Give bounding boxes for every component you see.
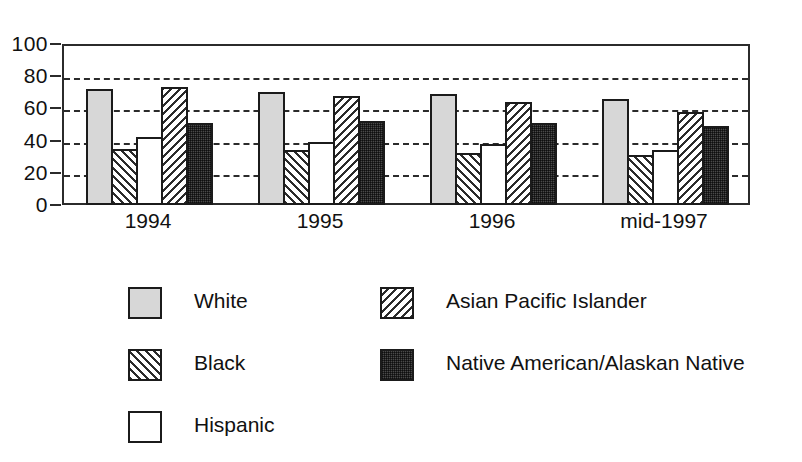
x-tick-label-1996: 1996	[469, 209, 516, 233]
y-tick-label-20: 20	[24, 161, 48, 185]
y-tick-label-0: 0	[36, 193, 48, 217]
bar-1994-asian-pacific-islander	[161, 87, 188, 205]
bar-1995-hispanic	[308, 142, 335, 205]
bar-mid-1997-native-american-alaskan-native	[702, 126, 729, 205]
legend-item-label: Native American/Alaskan Native	[446, 351, 745, 375]
bar-group-mid-1997	[578, 44, 750, 205]
bar-1996-asian-pacific-islander	[505, 102, 532, 205]
chart-figure: 020406080100 199419951996mid-1997 WhiteB…	[0, 0, 802, 462]
bar-groups	[62, 44, 750, 205]
y-tick-mark-60	[50, 107, 61, 109]
bar-1995-native-american-alaskan-native	[358, 121, 385, 205]
y-tick-label-40: 40	[24, 129, 48, 153]
legend-swatch-icon	[128, 287, 162, 319]
y-tick-label-100: 100	[11, 32, 48, 56]
legend-swatch-icon	[380, 287, 414, 319]
bar-1994-native-american-alaskan-native	[186, 123, 213, 205]
plot-area	[62, 44, 750, 205]
bar-group-1995	[234, 44, 406, 205]
bar-1995-black	[283, 150, 310, 205]
bar-group-1994	[62, 44, 234, 205]
bar-1994-white	[86, 89, 113, 205]
bar-mid-1997-white	[602, 99, 629, 205]
y-tick-mark-80	[50, 75, 61, 77]
y-tick-mark-0	[50, 204, 61, 206]
x-tick-label-mid-1997: mid-1997	[620, 209, 708, 233]
bar-group-1996	[406, 44, 578, 205]
bar-1996-white	[430, 94, 457, 205]
x-tick-label-1995: 1995	[297, 209, 344, 233]
legend-item-label: Black	[194, 351, 245, 375]
bar-1994-black	[111, 149, 138, 205]
x-tick-label-1994: 1994	[125, 209, 172, 233]
legend-item-label: Hispanic	[194, 413, 275, 437]
x-axis: 199419951996mid-1997	[62, 209, 750, 243]
legend-swatch-icon	[380, 349, 414, 381]
y-tick-mark-40	[50, 140, 61, 142]
y-axis: 020406080100	[0, 44, 62, 205]
bar-1994-hispanic	[136, 137, 163, 205]
bar-1996-native-american-alaskan-native	[530, 123, 557, 205]
y-tick-label-80: 80	[24, 64, 48, 88]
y-tick-mark-100	[50, 43, 61, 45]
legend-swatch-icon	[128, 349, 162, 381]
legend-item-label: Asian Pacific Islander	[446, 289, 647, 313]
legend-item-label: White	[194, 289, 248, 313]
bar-mid-1997-asian-pacific-islander	[677, 112, 704, 205]
y-tick-mark-20	[50, 172, 61, 174]
bar-1996-hispanic	[480, 144, 507, 205]
bar-1995-white	[258, 92, 285, 205]
bar-1996-black	[455, 153, 482, 205]
legend-swatch-icon	[128, 411, 162, 443]
bar-1995-asian-pacific-islander	[333, 96, 360, 205]
bar-mid-1997-black	[627, 155, 654, 205]
bar-mid-1997-hispanic	[652, 150, 679, 205]
y-tick-label-60: 60	[24, 96, 48, 120]
